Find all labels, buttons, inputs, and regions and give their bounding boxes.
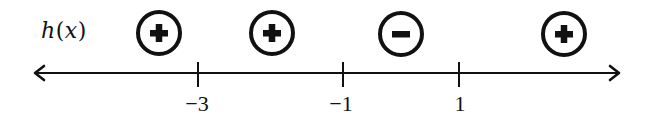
plus-circle-icon: [543, 13, 585, 55]
tick-label-neg3: −3: [185, 92, 208, 116]
number-line-svg: [0, 0, 650, 129]
open-paren: (: [56, 18, 65, 43]
plus-circle-icon: [138, 12, 180, 54]
close-paren: ): [78, 18, 87, 43]
function-variable: x: [65, 18, 78, 43]
function-name: h: [41, 18, 56, 43]
minus-circle-icon: [380, 13, 422, 55]
sign-chart: h(x): [0, 0, 650, 129]
tick-label-1: 1: [455, 92, 466, 116]
function-label: h(x): [41, 16, 87, 46]
plus-circle-icon: [251, 12, 293, 54]
tick-label-neg1: −1: [329, 92, 352, 116]
